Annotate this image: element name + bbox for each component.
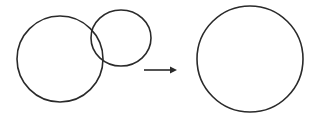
large-circle — [17, 16, 103, 102]
arrow-group — [144, 67, 177, 74]
before-group — [17, 10, 151, 102]
arrow-right-icon — [170, 67, 177, 74]
merged-circle — [197, 6, 303, 112]
after-group — [197, 6, 303, 112]
small-circle — [91, 10, 151, 66]
diagram-canvas — [0, 0, 321, 119]
